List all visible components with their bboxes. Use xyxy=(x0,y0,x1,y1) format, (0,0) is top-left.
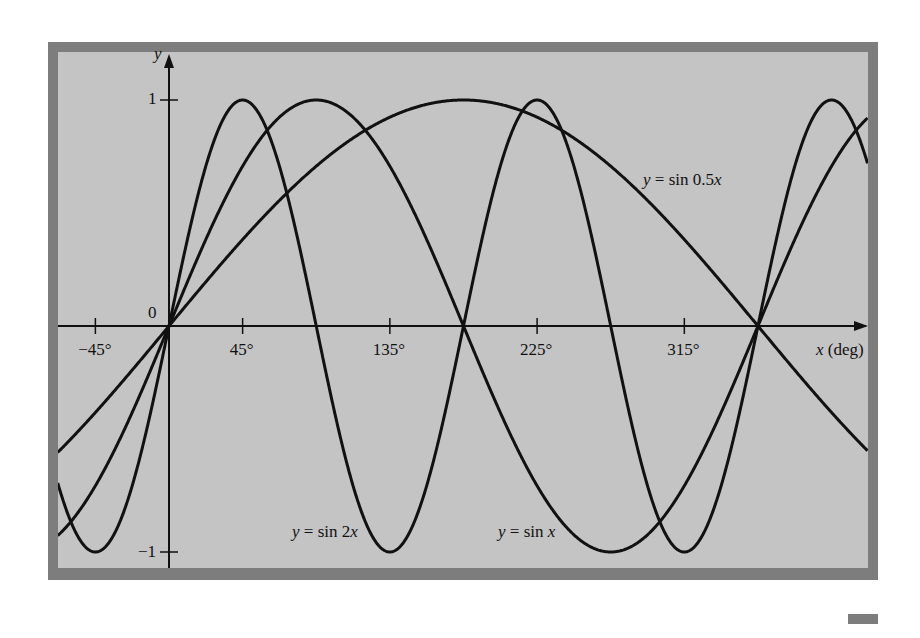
curve-label: y = sin 2x xyxy=(292,522,358,542)
curve-label: y = sin 0.5x xyxy=(643,170,722,190)
x-tick-label: −45° xyxy=(78,340,111,360)
x-tick-label: 225° xyxy=(520,340,552,360)
origin-label: 0 xyxy=(148,303,157,323)
x-tick-label: 315° xyxy=(667,340,699,360)
y-axis-label: y xyxy=(154,44,162,64)
chart-canvas xyxy=(58,52,868,568)
y-tick-label: 1 xyxy=(148,89,157,109)
plot-area xyxy=(58,52,868,568)
x-tick-label: 135° xyxy=(373,340,405,360)
y-tick-label: −1 xyxy=(138,542,156,562)
frame-tab-decoration xyxy=(848,614,878,624)
x-axis-arrow-icon xyxy=(854,321,868,331)
x-axis-label: x (deg) xyxy=(816,340,864,360)
y-axis-arrow-icon xyxy=(164,54,174,68)
x-tick-label: 45° xyxy=(230,340,254,360)
curve-label: y = sin x xyxy=(498,522,555,542)
